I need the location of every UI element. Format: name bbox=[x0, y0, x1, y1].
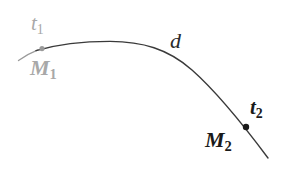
point-label-t2-subscript: 2 bbox=[256, 106, 263, 121]
point-label-m2: M2 bbox=[205, 129, 232, 154]
point-label-m1-base: M bbox=[30, 55, 50, 80]
point-label-t1: t1 bbox=[31, 13, 44, 37]
point-label-m2-subscript: 2 bbox=[225, 138, 232, 154]
arc-length-label: d bbox=[170, 30, 181, 52]
point-label-m1: M1 bbox=[30, 57, 57, 82]
trajectory-figure: t1 M1 d t2 M2 bbox=[0, 0, 284, 179]
point-label-m1-subscript: 1 bbox=[50, 66, 57, 82]
point-label-t1-subscript: 1 bbox=[37, 22, 44, 37]
point-label-m2-base: M bbox=[205, 127, 225, 152]
point-marker-m1 bbox=[39, 46, 44, 51]
point-label-t2: t2 bbox=[250, 97, 263, 121]
arc-main bbox=[36, 41, 268, 158]
point-marker-m2 bbox=[243, 124, 249, 130]
